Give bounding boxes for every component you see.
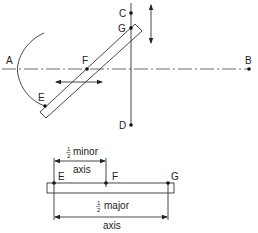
point-e-dot bbox=[43, 104, 47, 108]
point-g-dot bbox=[129, 26, 133, 30]
half-minor-label-line2: axis bbox=[73, 164, 91, 175]
label-g-flat: G bbox=[171, 171, 179, 182]
point-g-dot-flat bbox=[166, 181, 170, 185]
point-d-dot bbox=[129, 123, 133, 127]
label-e-flat: E bbox=[58, 171, 65, 182]
point-b-dot bbox=[247, 67, 251, 71]
label-g: G bbox=[118, 23, 126, 34]
label-a: A bbox=[6, 55, 13, 66]
point-f-dot-flat bbox=[104, 181, 108, 185]
point-c-dot bbox=[129, 11, 133, 15]
label-e: E bbox=[38, 92, 45, 103]
half-major-fraction-den: 2 bbox=[97, 207, 101, 213]
half-minor-fraction-num: 1 bbox=[67, 146, 71, 152]
label-d: D bbox=[119, 120, 126, 131]
half-major-fraction-num: 1 bbox=[97, 200, 101, 206]
trammel-method-diagram: B A C D E F G E F bbox=[0, 0, 258, 233]
label-f-flat: F bbox=[112, 171, 118, 182]
label-c: C bbox=[119, 8, 126, 19]
point-e-dot-flat bbox=[52, 181, 56, 185]
trammel-strip-angled bbox=[40, 24, 142, 118]
label-b: B bbox=[245, 55, 252, 66]
half-major-label-line1: major bbox=[104, 200, 130, 211]
point-f-dot bbox=[85, 67, 89, 71]
label-f: F bbox=[82, 55, 88, 66]
half-minor-label-line1: minor bbox=[73, 146, 99, 157]
top-view: B A C D E F G bbox=[2, 3, 252, 131]
bottom-view: E F G 1 2 minor axis 1 2 major axis bbox=[47, 146, 179, 231]
trammel-strip-flat bbox=[47, 183, 174, 193]
half-major-label-line2: axis bbox=[103, 220, 121, 231]
half-minor-fraction-den: 2 bbox=[67, 153, 71, 159]
